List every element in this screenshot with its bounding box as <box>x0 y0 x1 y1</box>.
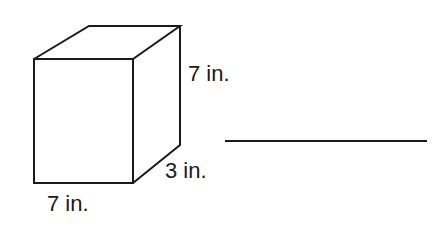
width-label: 7 in. <box>47 193 89 215</box>
height-label: 7 in. <box>188 63 230 85</box>
answer-blank[interactable] <box>225 140 427 142</box>
depth-label: 3 in. <box>165 160 207 182</box>
top-face <box>34 26 180 59</box>
front-face <box>34 59 133 183</box>
